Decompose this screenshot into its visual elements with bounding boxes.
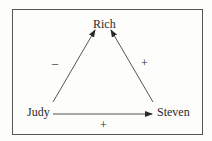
node-rich: Rich bbox=[93, 17, 116, 31]
sign-judy-rich: – bbox=[51, 56, 59, 70]
node-judy: Judy bbox=[27, 105, 50, 119]
triangle-diagram: Rich Judy Steven – + + bbox=[0, 0, 212, 141]
edge-judy-rich bbox=[53, 30, 95, 102]
sign-steven-rich: + bbox=[141, 56, 148, 70]
node-steven: Steven bbox=[157, 105, 190, 119]
sign-judy-steven: + bbox=[100, 118, 107, 132]
